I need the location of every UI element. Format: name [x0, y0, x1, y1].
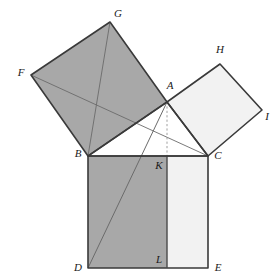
- vertex-label-b: B: [75, 147, 82, 159]
- vertex-label-d: D: [73, 261, 82, 273]
- geometry-figure-container: A B C D E F G H I K L: [0, 0, 280, 280]
- vertex-label-l: L: [155, 253, 162, 265]
- euclid-pythagorean-diagram: A B C D E F G H I K L: [0, 0, 280, 280]
- vertex-label-g: G: [114, 7, 122, 19]
- vertex-label-h: H: [215, 43, 225, 55]
- rectangle-bdlk-fill: [88, 156, 167, 268]
- vertex-label-f: F: [17, 66, 25, 78]
- vertex-label-c: C: [214, 149, 222, 161]
- vertex-label-a: A: [166, 79, 174, 91]
- rectangle-klec-fill: [167, 156, 208, 268]
- vertex-label-k: K: [154, 159, 163, 171]
- vertex-label-e: E: [214, 261, 222, 273]
